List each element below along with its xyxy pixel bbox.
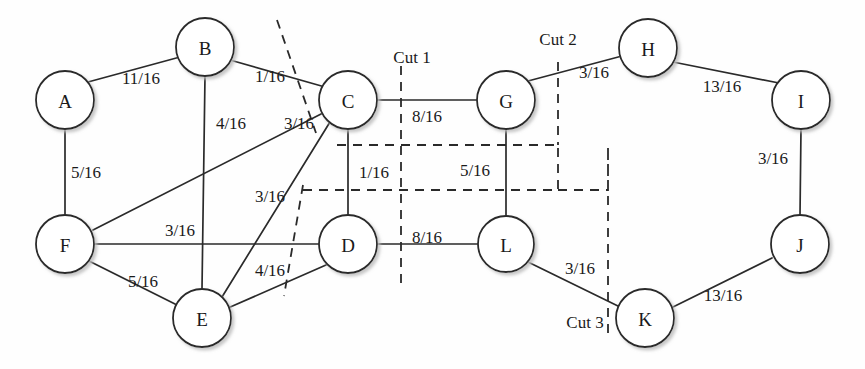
edge-label-I-J: 3/16: [758, 149, 788, 168]
edge-label-D-L: 8/16: [412, 228, 442, 247]
edge-label-C-F: 3/16: [284, 114, 314, 133]
node-L[interactable]: L: [478, 216, 534, 272]
edge-label-B-E: 4/16: [216, 114, 246, 133]
node-label-A: A: [58, 91, 72, 112]
cut1-diagonal-line: [277, 20, 316, 296]
cut2-path: [303, 145, 558, 190]
node-I[interactable]: I: [772, 71, 830, 129]
node-label-F: F: [60, 235, 71, 256]
edge-label-A-F: 5/16: [71, 163, 101, 182]
node-label-L: L: [500, 235, 512, 256]
edge-lines: [65, 56, 801, 308]
node-G[interactable]: G: [477, 71, 535, 129]
cut-label-cut1: Cut 1: [393, 48, 430, 67]
diagram-canvas: ABCDEFGHIJKL 11/16 1/16 4/16 5/16 3/16 3…: [0, 0, 865, 369]
node-label-C: C: [342, 91, 355, 112]
edge-label-C-D: 1/16: [359, 163, 389, 182]
cut-label-cut2: Cut 2: [539, 30, 576, 49]
node-C[interactable]: C: [319, 71, 377, 129]
edge-label-G-H: 3/16: [579, 63, 609, 82]
graph-svg: ABCDEFGHIJKL 11/16 1/16 4/16 5/16 3/16 3…: [0, 0, 865, 369]
edge-label-B-C: 1/16: [255, 67, 285, 86]
node-label-B: B: [199, 38, 212, 59]
edge-label-J-K: 13/16: [704, 286, 743, 305]
node-label-K: K: [638, 309, 652, 330]
cut3-path: [558, 146, 608, 340]
node-J[interactable]: J: [771, 215, 829, 273]
edge-label-H-I: 13/16: [703, 77, 742, 96]
node-K[interactable]: K: [616, 289, 674, 347]
edge-label-F-E: 5/16: [128, 272, 158, 291]
node-label-I: I: [798, 91, 804, 112]
node-label-G: G: [499, 91, 513, 112]
edge-label-D-E: 4/16: [255, 261, 285, 280]
edge-weight-labels: 11/16 1/16 4/16 5/16 3/16 3/16 1/16 8/16…: [71, 63, 788, 305]
node-label-J: J: [796, 235, 803, 256]
edge-label-C-G: 8/16: [412, 107, 442, 126]
cut3-boundary: [558, 146, 608, 340]
edge-label-C-E: 3/16: [255, 187, 285, 206]
edge-I-J: [800, 129, 801, 215]
cut-label-cut3: Cut 3: [566, 313, 603, 332]
edge-B-E: [202, 76, 205, 289]
node-A[interactable]: A: [36, 71, 94, 129]
node-label-E: E: [196, 309, 208, 330]
edge-label-G-L: 5/16: [460, 161, 490, 180]
edge-label-A-B: 11/16: [122, 69, 160, 88]
edge-label-F-D: 3/16: [165, 221, 195, 240]
node-label-D: D: [341, 235, 355, 256]
node-F[interactable]: F: [36, 215, 94, 273]
node-E[interactable]: E: [173, 289, 231, 347]
edge-label-K-L: 3/16: [565, 259, 595, 278]
node-H[interactable]: H: [619, 19, 677, 77]
node-label-H: H: [641, 39, 655, 60]
node-D[interactable]: D: [319, 215, 377, 273]
node-B[interactable]: B: [176, 18, 234, 76]
